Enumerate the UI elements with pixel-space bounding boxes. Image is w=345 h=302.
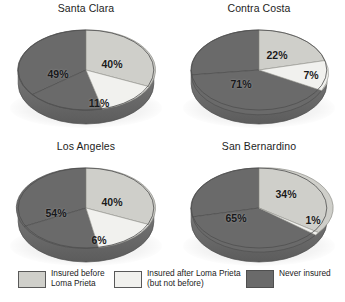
legend-swatch-icon (114, 271, 142, 288)
pie-slice-label: 40% (101, 196, 122, 208)
pie-svg-los-angeles (16, 156, 156, 268)
legend-swatch-icon (246, 270, 274, 288)
legend-item-label: Insured before Loma Prieta (51, 268, 105, 288)
pie-slice-label: 54% (45, 207, 66, 219)
pie-slice-label: 6% (91, 234, 106, 246)
pie-slice-label: 7% (303, 69, 318, 81)
pie-panel-contra-costa: Contra Costa (173, 2, 345, 140)
pie-slice-label: 22% (266, 49, 287, 61)
pie-slice-label: 11% (89, 97, 109, 109)
pie-slice-label: 1% (305, 214, 320, 226)
pie-panel-santa-clara: Santa Clara (0, 2, 172, 140)
legend-swatch-icon (18, 271, 46, 288)
pie-stage-santa-clara: 40% 11% 49% (16, 18, 156, 130)
chart-legend: Insured before Loma Prieta Insured after… (0, 268, 345, 302)
pie-stage-contra-costa: 22% 7% 71% (189, 18, 329, 130)
pie-panel-san-bernardino: San Bernardino (173, 140, 345, 278)
four-pie-chart-figure: Santa Clara (0, 0, 345, 302)
pie-svg-santa-clara (16, 18, 156, 130)
pie-slice-label: 40% (101, 58, 122, 70)
pie-title-san-bernardino: San Bernardino (173, 140, 345, 152)
legend-item-label: Never insured (279, 268, 331, 278)
pie-title-los-angeles: Los Angeles (0, 140, 172, 152)
legend-item-never-insured: Never insured (246, 268, 345, 298)
legend-item-insured-after: Insured after Loma Prieta (but not befor… (114, 268, 246, 298)
pie-slice-label: 49% (47, 68, 68, 80)
pie-panel-los-angeles: Los Angeles (0, 140, 172, 278)
pie-svg-san-bernardino (189, 156, 329, 268)
pie-stage-san-bernardino: 34% 1% 65% (189, 156, 329, 268)
pie-slice-label: 71% (230, 78, 251, 90)
pie-slice-label: 34% (275, 188, 296, 200)
pie-slice-label: 65% (225, 212, 246, 224)
pie-title-santa-clara: Santa Clara (0, 2, 172, 14)
pie-stage-los-angeles: 40% 6% 54% (16, 156, 156, 268)
pie-title-contra-costa: Contra Costa (173, 2, 345, 14)
legend-item-label: Insured after Loma Prieta (but not befor… (147, 268, 241, 288)
